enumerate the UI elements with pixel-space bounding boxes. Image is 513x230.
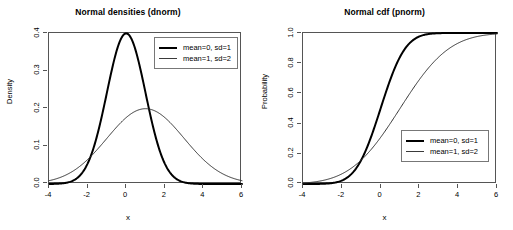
ytick-mark-0 [43, 182, 47, 183]
xtick-label-2: 0 [370, 190, 390, 199]
legend-line-thin-icon [406, 151, 424, 152]
legend-item-cdf-mean1-sd2: mean=1, sd=2 [406, 146, 483, 157]
xtick-label-1: -2 [77, 190, 97, 199]
y-axis-label-right-text: Probability [261, 74, 270, 109]
ytick-label-2: 0.4 [277, 118, 295, 128]
xtick-mark-2 [380, 184, 381, 188]
xtick-mark-3 [418, 184, 419, 188]
plot-area-right: mean=0, sd=1 mean=1, sd=2 [302, 32, 496, 183]
xtick-mark-1 [87, 184, 88, 188]
legend-label-1: mean=1, sd=2 [183, 54, 231, 63]
legend-item-mean0-sd1: mean=0, sd=1 [159, 42, 232, 53]
xtick-mark-0 [302, 184, 303, 188]
ytick-label-2: 0.2 [23, 102, 41, 112]
legend-left[interactable]: mean=0, sd=1 mean=1, sd=2 [154, 37, 238, 69]
legend-line-thick-icon [406, 140, 424, 142]
xtick-mark-5 [496, 184, 497, 188]
xtick-label-3: 2 [408, 190, 428, 199]
xtick-mark-5 [241, 184, 242, 188]
ytick-label-3: 0.3 [23, 65, 41, 75]
xtick-label-0: -4 [38, 190, 58, 199]
xtick-label-1: -2 [331, 190, 351, 199]
xtick-label-4: 4 [192, 190, 212, 199]
legend-label-0: mean=0, sd=1 [183, 43, 231, 52]
xtick-label-5: 6 [486, 190, 506, 199]
ytick-mark-2 [297, 123, 301, 124]
ytick-label-0: 0.0 [23, 177, 41, 187]
ytick-mark-1 [43, 145, 47, 146]
ytick-mark-0 [297, 182, 301, 183]
xtick-mark-4 [202, 184, 203, 188]
ytick-label-1: 0.1 [23, 140, 41, 150]
xtick-label-4: 4 [447, 190, 467, 199]
legend-line-thin-icon [159, 58, 177, 59]
legend-label-1: mean=1, sd=2 [430, 147, 478, 156]
xtick-mark-1 [341, 184, 342, 188]
ytick-label-5: 1.0 [277, 27, 295, 37]
xtick-label-2: 0 [115, 190, 135, 199]
plot-area-left: mean=0, sd=1 mean=1, sd=2 [48, 32, 241, 183]
legend-right[interactable]: mean=0, sd=1 mean=1, sd=2 [401, 130, 489, 162]
figure-two-panel: Normal densities (dnorm) Density mean=0,… [0, 0, 513, 230]
legend-label-0: mean=0, sd=1 [430, 136, 478, 145]
x-axis-label-right: x [256, 213, 513, 222]
ytick-label-1: 0.2 [277, 148, 295, 158]
xtick-label-0: -4 [292, 190, 312, 199]
ytick-label-3: 0.6 [277, 87, 295, 97]
xtick-mark-3 [164, 184, 165, 188]
xtick-mark-4 [457, 184, 458, 188]
ytick-label-0: 0.0 [277, 177, 295, 187]
panel-normal-cdf: Normal cdf (pnorm) Probability mean=0, s… [256, 0, 513, 230]
legend-line-thick-icon [159, 47, 177, 49]
legend-item-cdf-mean0-sd1: mean=0, sd=1 [406, 135, 483, 146]
plot-title-left: Normal densities (dnorm) [0, 7, 256, 18]
xtick-mark-0 [48, 184, 49, 188]
xtick-label-5: 6 [231, 190, 251, 199]
ytick-mark-3 [43, 70, 47, 71]
ytick-mark-4 [297, 62, 301, 63]
ytick-mark-4 [43, 32, 47, 33]
x-axis-label-left: x [0, 213, 256, 222]
y-axis-label-left-text: Density [5, 79, 14, 104]
plot-title-right: Normal cdf (pnorm) [256, 7, 513, 18]
ytick-label-4: 0.4 [23, 27, 41, 37]
y-axis-label-left: Density [2, 0, 16, 183]
ytick-label-4: 0.8 [277, 57, 295, 67]
xtick-label-3: 2 [154, 190, 174, 199]
ytick-mark-3 [297, 92, 301, 93]
ytick-mark-1 [297, 153, 301, 154]
curve-mean1-sd2 [49, 109, 242, 181]
y-axis-label-right: Probability [258, 0, 272, 183]
ytick-mark-5 [297, 32, 301, 33]
ytick-mark-2 [43, 107, 47, 108]
xtick-mark-2 [125, 184, 126, 188]
legend-item-mean1-sd2: mean=1, sd=2 [159, 53, 232, 64]
panel-normal-densities: Normal densities (dnorm) Density mean=0,… [0, 0, 256, 230]
